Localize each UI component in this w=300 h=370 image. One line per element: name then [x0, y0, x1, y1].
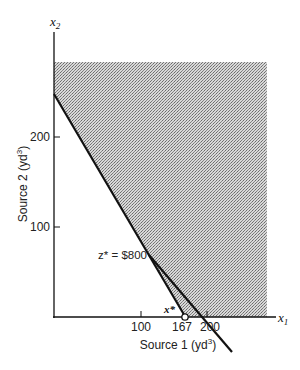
x-tick-label-100: 100 [131, 320, 151, 334]
y-tick-label-100: 100 [30, 220, 50, 234]
x-axis-title: Source 1 (yd3) [140, 337, 217, 352]
objective-label: z* = $800 [98, 249, 147, 261]
feasible-region [54, 62, 267, 317]
x-tick-label-200: 200 [200, 320, 220, 334]
y-axis-symbol: x2 [49, 14, 61, 31]
chart: x2 x1 200 100 100 167 200 Source 1 (yd3)… [0, 0, 300, 370]
y-axis-title: Source 2 (yd3) [15, 146, 30, 223]
x-axis-symbol: x1 [277, 310, 288, 327]
y-tick-label-200: 200 [30, 130, 50, 144]
optimum-label: x* [163, 303, 176, 315]
x-tick-label-167: 167 [172, 320, 192, 334]
